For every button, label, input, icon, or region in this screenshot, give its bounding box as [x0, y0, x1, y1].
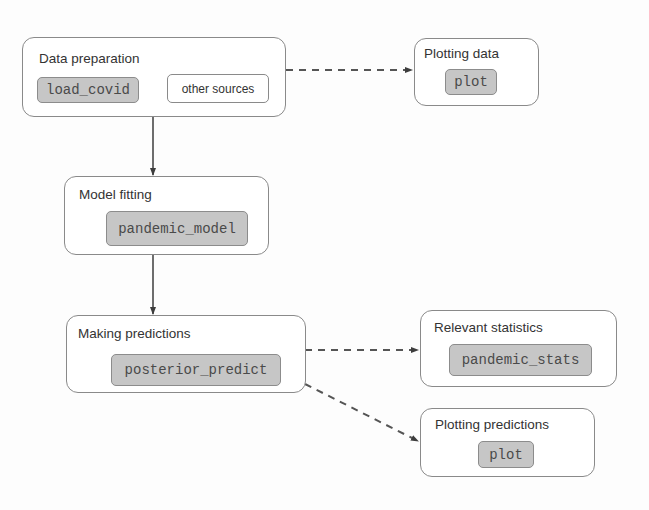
node-relevant-statistics: Relevant statistics pandemic_stats [420, 310, 617, 387]
chip-other-sources: other sources [167, 74, 269, 103]
node-title: Data preparation [39, 51, 140, 66]
code-chip-plot: plot [445, 69, 497, 95]
node-making-predictions: Making predictions posterior_predict [66, 315, 306, 393]
node-title: Making predictions [78, 326, 191, 341]
node-data-preparation: Data preparation load_covid other source… [22, 37, 286, 117]
diagram-canvas: Data preparation load_covid other source… [0, 0, 649, 510]
node-title: Plotting predictions [435, 417, 549, 432]
node-model-fitting: Model fitting pandemic_model [64, 176, 269, 255]
code-chip-pandemic-model: pandemic_model [106, 211, 248, 246]
code-chip-plot: plot [478, 441, 534, 468]
edge-making-predictions-to-plotting-predictions [305, 384, 418, 441]
node-title: Relevant statistics [434, 320, 543, 335]
code-chip-pandemic-stats: pandemic_stats [449, 344, 592, 376]
node-plotting-predictions: Plotting predictions plot [420, 408, 595, 477]
code-chip-load-covid: load_covid [37, 77, 139, 103]
node-title: Plotting data [424, 46, 499, 61]
node-plotting-data: Plotting data plot [414, 38, 539, 106]
code-chip-posterior-predict: posterior_predict [111, 354, 281, 386]
node-title: Model fitting [79, 187, 152, 202]
